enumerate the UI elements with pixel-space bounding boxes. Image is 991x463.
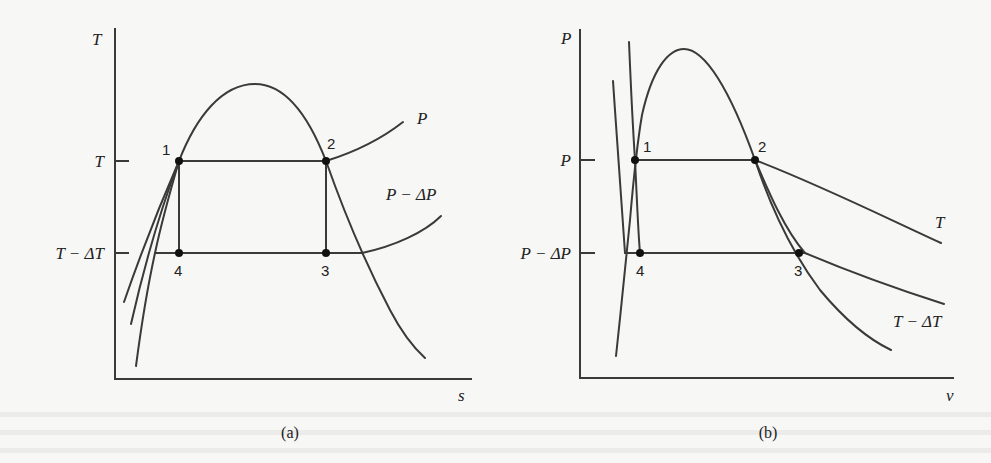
panel-b-curve-label-T-minus-dT: T − ΔT [893,312,943,331]
panel-a-point-label-4: 4 [174,262,182,279]
panel-b-point-label-1: 1 [643,138,651,155]
panel-b-tick-label-P-minus-dP: P − ΔP [520,244,571,263]
panel-b-state-point-1 [631,156,639,164]
panel-b-pv-diagram: P v P P − ΔP T T − ΔT 1 2 3 4 (b) [520,29,954,442]
panel-b-point-label-2: 2 [758,138,766,155]
thermo-diagram-figure: T s T T − ΔT P P − ΔP 1 2 3 4 (a) [0,0,991,463]
panel-a-state-point-3 [322,249,330,257]
panel-a-isobar-P-minus-dP-liquid [136,161,179,366]
panel-a-point-label-1: 1 [162,141,170,158]
panel-a-y-axis-label: T [92,30,103,49]
panel-b-saturation-dome [616,49,891,356]
panel-a-ts-diagram: T s T T − ΔT P P − ΔP 1 2 3 4 (a) [55,28,472,442]
panel-a-x-axis-label: s [458,386,465,405]
panel-b-state-point-4 [636,249,644,257]
panel-a-point-label-2: 2 [327,135,335,152]
panel-b-point-label-3: 3 [794,262,802,279]
panel-a-point-label-3: 3 [321,262,329,279]
panel-a-isobar-P-vapor [326,122,403,161]
panel-a-caption: (a) [281,424,299,442]
panel-a-tick-label-T-minus-dT: T − ΔT [55,244,105,263]
panel-a-tick-label-T: T [95,152,106,171]
panel-b-caption: (b) [759,424,778,442]
panel-b-state-point-2 [751,156,759,164]
panel-a-isobar-P-liquid [124,161,179,302]
panel-a-state-point-2 [322,157,330,165]
panel-b-state-point-3 [795,249,803,257]
panel-b-tick-label-P: P [560,151,571,170]
panel-b-curve-label-T: T [935,213,946,232]
panel-a-state-point-1 [175,157,183,165]
panel-b-y-axis-label: P [560,29,571,48]
panel-a-isobar-P-minus-dP-vapor [362,216,441,253]
panel-a-curve-label-P-minus-dP: P − ΔP [385,185,436,204]
panel-a-saturation-dome [131,84,425,358]
panel-a-curve-label-P: P [416,109,427,128]
panel-a-state-point-4 [175,249,183,257]
panel-b-x-axis-label: v [946,386,954,405]
panel-b-point-label-4: 4 [636,262,644,279]
panel-b-isotherm-T-minus-dT-liquid [613,81,625,253]
